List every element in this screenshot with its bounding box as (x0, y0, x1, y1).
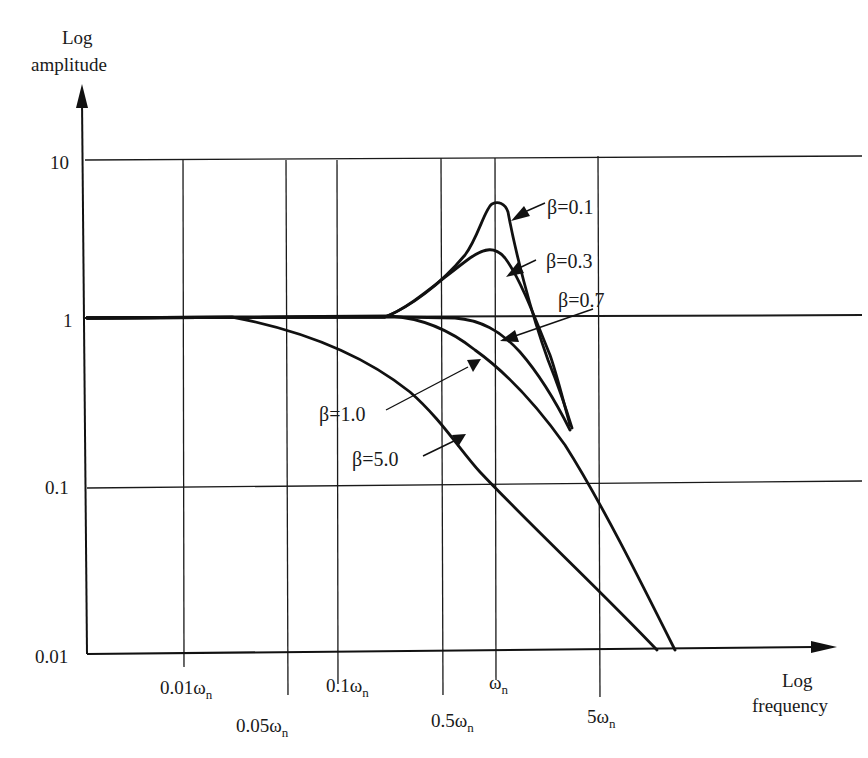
y-tick-labels: 10 1 0.1 0.01 (35, 152, 73, 667)
y-tick-10: 10 (50, 152, 69, 173)
y-axis-arrowhead-icon (76, 84, 88, 108)
x-tick-0.5wn: 0.5ωn (431, 710, 474, 735)
pointer-beta-0.1-arrowhead-icon (511, 206, 530, 221)
y-tick-1: 1 (63, 310, 73, 331)
gridline-x-0.01wn (183, 160, 184, 667)
pointer-beta-5.0 (423, 440, 456, 456)
x-axis (87, 647, 815, 654)
gridline-y-10 (85, 156, 862, 160)
y-axis (82, 100, 87, 654)
x-axis-title-line1: Log (782, 670, 813, 691)
label-beta-5.0: β=5.0 (352, 448, 398, 471)
x-axis-arrowhead-icon (811, 641, 837, 653)
pointer-beta-1.0 (386, 367, 468, 410)
x-axis-title-line2: frequency (752, 695, 828, 716)
y-tick-0.1: 0.1 (45, 477, 69, 498)
x-tick-labels: 0.01ωn 0.05ωn 0.1ωn 0.5ωn ωn 5ωn (160, 672, 616, 740)
gridline-y-0.1 (87, 481, 862, 488)
label-beta-0.1: β=0.1 (547, 196, 593, 219)
label-beta-0.3: β=0.3 (546, 250, 592, 273)
pointer-beta-1.0-arrowhead-icon (467, 359, 481, 372)
y-axis-title-line2: amplitude (31, 54, 107, 75)
gridline-x-wn (495, 158, 496, 680)
gridline-x-0.05wn (286, 160, 288, 695)
label-beta-1.0: β=1.0 (319, 403, 365, 426)
y-tick-0.01: 0.01 (35, 646, 68, 667)
annotation-pointers (386, 203, 593, 456)
x-tick-wn: ωn (489, 672, 509, 697)
curve-beta-1.0 (87, 316, 675, 650)
gridline-x-5wn (598, 156, 600, 697)
label-beta-0.7: β=0.7 (558, 289, 604, 312)
x-axis-title: Log frequency (752, 670, 828, 716)
x-tick-0.05wn: 0.05ωn (236, 715, 289, 740)
x-tick-0.01wn: 0.01ωn (160, 677, 213, 702)
y-axis-title: Log amplitude (31, 27, 107, 75)
axes (76, 84, 837, 654)
x-tick-0.1wn: 0.1ωn (326, 675, 369, 700)
bode-amplitude-chart: β=0.1 β=0.3 β=0.7 β=1.0 β=5.0 Log amplit… (0, 0, 868, 758)
x-tick-5wn: 5ωn (587, 706, 616, 731)
y-axis-title-line1: Log (62, 27, 93, 48)
beta-labels: β=0.1 β=0.3 β=0.7 β=1.0 β=5.0 (319, 196, 604, 471)
curve-beta-0.3 (87, 250, 570, 425)
pointer-beta-0.7 (515, 309, 593, 336)
vertical-gridlines (183, 156, 600, 697)
